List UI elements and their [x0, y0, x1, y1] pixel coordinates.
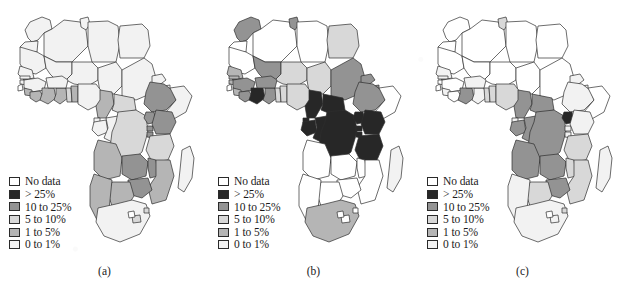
country-benin[interactable] [489, 86, 496, 102]
legend-row: 10 to 25% [218, 201, 302, 214]
legend-label-gt25: > 25% [443, 188, 473, 201]
legend-label-no-data: No data [25, 175, 60, 188]
country-egypt[interactable] [327, 24, 359, 58]
country-madagascar[interactable] [387, 146, 403, 192]
legend-swatch-0-1 [9, 240, 20, 249]
legend-swatch-no-data [9, 177, 20, 186]
country-libya[interactable] [297, 21, 329, 62]
country-swaziland[interactable] [353, 208, 358, 213]
country-south-africa[interactable] [514, 200, 568, 242]
country-chad[interactable] [307, 62, 331, 94]
country-swaziland[interactable] [144, 208, 149, 213]
panel-caption-b: (b) [209, 265, 418, 277]
legend-row: No data [427, 175, 511, 188]
legend-swatch-gt25 [9, 190, 20, 199]
legend-row: > 25% [9, 188, 93, 201]
legend-label-5-10: 5 to 10% [25, 213, 66, 226]
panel-a: No data > 25% 10 to 25% 5 to 10% 1 to 5%… [0, 0, 209, 283]
country-gambia[interactable] [229, 76, 239, 79]
country-chad[interactable] [98, 62, 122, 94]
country-egypt[interactable] [536, 24, 568, 58]
country-tanzania[interactable] [564, 134, 592, 162]
legend-row: > 25% [427, 188, 511, 201]
country-tanzania[interactable] [146, 134, 174, 162]
country-libya[interactable] [88, 21, 120, 62]
legend-swatch-no-data [427, 177, 438, 186]
country-kenya[interactable] [570, 110, 594, 134]
legend-swatch-gt25 [218, 190, 229, 199]
legend-label-5-10: 5 to 10% [443, 213, 484, 226]
legend-label-1-5: 1 to 5% [443, 226, 478, 239]
country-zambia[interactable] [540, 154, 566, 180]
legend-swatch-gt25 [427, 190, 438, 199]
legend-label-10-25: 10 to 25% [443, 201, 489, 214]
country-rwanda[interactable] [565, 126, 571, 131]
country-south-africa[interactable] [305, 200, 359, 242]
legend-row: 1 to 5% [9, 226, 93, 239]
legend-label-gt25: > 25% [25, 188, 55, 201]
legend-label-0-1: 0 to 1% [443, 238, 478, 251]
legend-row: 0 to 1% [9, 238, 93, 251]
country-gambia[interactable] [20, 76, 30, 79]
country-ivory-coast[interactable] [458, 88, 474, 104]
map-inset-shape-1 [227, 84, 232, 91]
legend-row: 5 to 10% [9, 213, 93, 226]
map-inset-shape-2 [128, 211, 135, 218]
legend-swatch-5-10 [427, 215, 438, 224]
country-kenya[interactable] [152, 110, 176, 134]
legend-swatch-0-1 [427, 240, 438, 249]
legend-label-5-10: 5 to 10% [234, 213, 275, 226]
country-burkina-faso[interactable] [464, 76, 486, 88]
legend-row: No data [9, 175, 93, 188]
country-rwanda[interactable] [356, 126, 362, 131]
legend-swatch-5-10 [218, 215, 229, 224]
legend-label-0-1: 0 to 1% [234, 238, 269, 251]
legend-swatch-10-25 [218, 202, 229, 211]
country-burkina-faso[interactable] [255, 76, 277, 88]
legend-label-gt25: > 25% [234, 188, 264, 201]
panel-caption-a: (a) [0, 265, 209, 277]
country-swaziland[interactable] [562, 208, 567, 213]
legend-swatch-1-5 [427, 228, 438, 237]
legend-label-0-1: 0 to 1% [25, 238, 60, 251]
country-south-africa[interactable] [96, 200, 150, 242]
legend-b: No data > 25% 10 to 25% 5 to 10% 1 to 5%… [218, 175, 302, 251]
country-burkina-faso[interactable] [46, 76, 68, 88]
country-zambia[interactable] [122, 154, 148, 180]
country-chad[interactable] [516, 62, 540, 94]
map-inset-shape-1 [436, 84, 441, 91]
panel-caption-c: (c) [418, 265, 627, 277]
country-ivory-coast[interactable] [40, 88, 56, 104]
legend-row: 10 to 25% [9, 201, 93, 214]
legend-swatch-10-25 [9, 202, 20, 211]
country-tanzania[interactable] [355, 134, 383, 162]
map-inset-shape-2 [546, 211, 553, 218]
legend-row: 0 to 1% [218, 238, 302, 251]
legend-swatch-10-25 [427, 202, 438, 211]
country-libya[interactable] [506, 21, 538, 62]
legend-a: No data > 25% 10 to 25% 5 to 10% 1 to 5%… [9, 175, 93, 251]
country-benin[interactable] [71, 86, 78, 102]
country-egypt[interactable] [118, 24, 150, 58]
legend-row: 1 to 5% [218, 226, 302, 239]
map-inset-shape-2 [337, 211, 344, 218]
panel-c: No data > 25% 10 to 25% 5 to 10% 1 to 5%… [418, 0, 627, 283]
figure-three-panel-africa-maps: No data > 25% 10 to 25% 5 to 10% 1 to 5%… [0, 0, 628, 283]
country-madagascar[interactable] [178, 146, 194, 192]
country-zambia[interactable] [331, 154, 357, 180]
country-gambia[interactable] [438, 76, 448, 79]
legend-label-10-25: 10 to 25% [234, 201, 280, 214]
legend-row: No data [218, 175, 302, 188]
country-ivory-coast[interactable] [249, 88, 265, 104]
legend-label-10-25: 10 to 25% [25, 201, 71, 214]
country-benin[interactable] [280, 86, 287, 102]
country-rwanda[interactable] [147, 126, 153, 131]
legend-label-no-data: No data [234, 175, 269, 188]
country-kenya[interactable] [361, 110, 385, 134]
country-madagascar[interactable] [596, 146, 612, 192]
legend-swatch-0-1 [218, 240, 229, 249]
legend-row: > 25% [218, 188, 302, 201]
map-inset-shape-1 [18, 84, 23, 91]
legend-label-no-data: No data [443, 175, 478, 188]
legend-row: 5 to 10% [427, 213, 511, 226]
